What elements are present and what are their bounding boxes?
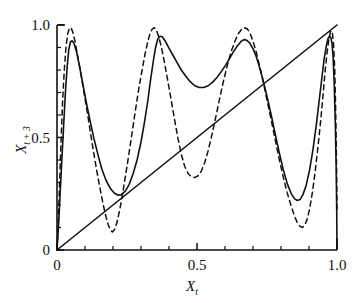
x-tick-label-0.5: 0.5 [188, 257, 207, 273]
y-tick-label-1.0: 1.0 [31, 17, 50, 33]
y-axis-title: Xt + 3 [13, 126, 32, 155]
figure-container: 1.0 0.5 0 0 0.5 1.0 Xt Xt + 3 [0, 0, 360, 303]
x-axis-title-sub: t [195, 287, 198, 297]
svg-text:Xt: Xt [185, 278, 198, 297]
y-tick-label-0: 0 [43, 242, 51, 258]
x-tick-label-1.0: 1.0 [328, 257, 347, 273]
x-axis-title: Xt [185, 278, 198, 297]
series-identity-line [57, 25, 337, 250]
return-map-chart: 1.0 0.5 0 0 0.5 1.0 Xt Xt + 3 [0, 0, 360, 303]
chart-geometry [57, 25, 337, 250]
x-tick-label-0: 0 [53, 257, 61, 273]
y-axis-title-sub: t + 3 [22, 126, 32, 145]
y-tick-label-0.5: 0.5 [31, 130, 50, 146]
svg-text:Xt + 3: Xt + 3 [13, 126, 32, 155]
